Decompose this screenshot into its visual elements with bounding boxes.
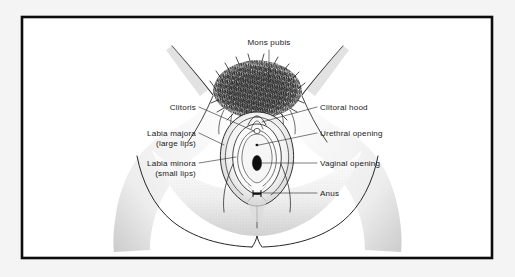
label-clitoris: Clitoris	[170, 103, 196, 112]
vulva-anatomy-diagram: Mons pubis Clitoris Clitoral hood Labia …	[0, 0, 515, 277]
label-urethral-opening: Urethral opening	[320, 129, 383, 138]
label-labia-majora: Labia majora	[147, 129, 196, 138]
label-mons-pubis: Mons pubis	[247, 38, 290, 47]
vaginal-opening-mark	[252, 155, 261, 170]
urethral-opening-mark	[256, 144, 259, 146]
glans-clitoris	[254, 128, 260, 133]
label-vaginal-opening: Vaginal opening	[320, 159, 380, 168]
label-clitoral-hood: Clitoral hood	[320, 103, 368, 112]
label-anus: Anus	[320, 189, 339, 198]
label-labia-majora-sub: (large lips)	[156, 139, 196, 148]
label-labia-minora-sub: (small lips)	[155, 169, 196, 178]
anatomical-figure: Mons pubis Clitoris Clitoral hood Labia …	[0, 0, 515, 277]
label-labia-minora: Labia minora	[147, 159, 196, 168]
